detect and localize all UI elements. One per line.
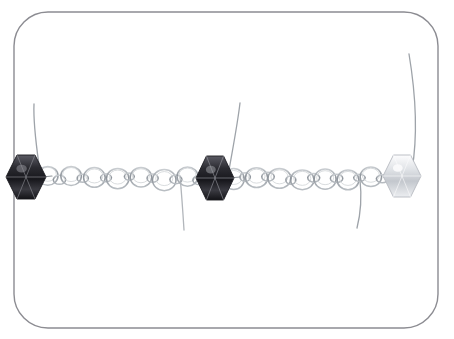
bead-highlight — [16, 165, 26, 173]
bead-highlight — [393, 164, 403, 172]
bead-highlight — [206, 166, 216, 174]
jewelry-photograph — [0, 0, 454, 339]
photo-stage: Close-up photograph of a silver round-li… — [0, 0, 454, 339]
